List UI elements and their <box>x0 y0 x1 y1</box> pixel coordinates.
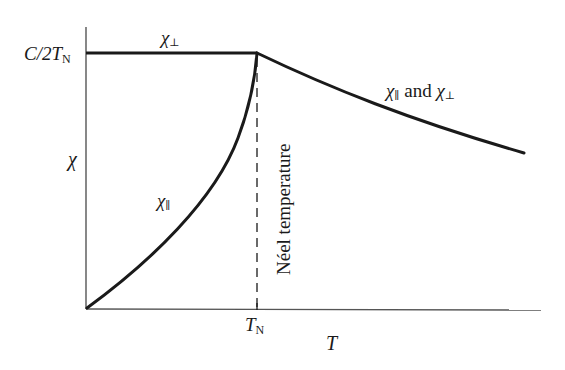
y-axis-label: χ <box>66 148 78 171</box>
x-axis-label: T <box>326 332 339 354</box>
x-axis <box>86 309 541 310</box>
chi-parallel-label: χ∥ <box>155 190 170 211</box>
paramagnetic-curve <box>257 53 524 153</box>
y-tick-label: C/2TN <box>24 43 71 66</box>
chi-parallel-curve <box>87 53 257 308</box>
chi-perp-label: χ⊥ <box>159 27 180 48</box>
x-tick-label: TN <box>245 314 265 337</box>
neel-temperature-label: Néel temperature <box>273 144 294 275</box>
antiferromagnet-susceptibility-diagram: C/2TN χ χ⊥ χ∥ χ∥ and χ⊥ Néel temperature… <box>0 0 565 370</box>
above-neel-label: χ∥ and χ⊥ <box>384 80 455 101</box>
